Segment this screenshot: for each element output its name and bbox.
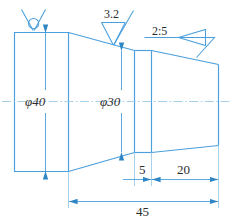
right-taper-bottom-edge [152,146,219,153]
phi-symbol-40: φ40 [25,94,45,109]
cone-bottom-edge [69,153,135,172]
no-machining-allowed-symbol [22,10,46,31]
label-surface-roughness: 3.2 [104,8,119,20]
label-taper-ratio: 2:5 [152,25,167,37]
no-machining-circle [28,19,38,29]
label-diameter-30: φ30 [100,95,120,108]
no-machining-v-right [34,10,45,31]
engineering-drawing: φ40 φ30 5 20 45 3.2 2:5 [0,0,234,222]
drawing-canvas [0,0,234,222]
right-taper-top-edge [152,51,219,65]
no-machining-v-left [22,10,34,31]
label-length-total: 45 [136,205,149,218]
label-length-step: 5 [139,163,146,176]
cone-top-edge [69,33,135,51]
label-diameter-40: φ40 [25,95,45,108]
phi-symbol-30: φ30 [100,94,120,109]
label-length-taper: 20 [177,163,190,176]
